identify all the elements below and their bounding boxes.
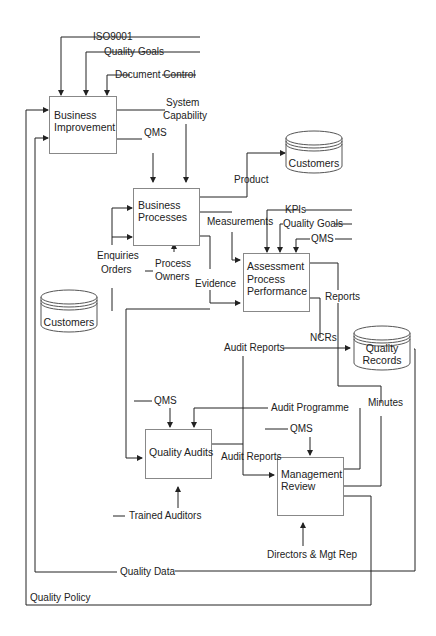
- process-label: Assessment: [247, 260, 304, 273]
- label-measurements: Measurements: [207, 216, 273, 228]
- datastore-customers-top[interactable]: Customers: [285, 130, 343, 175]
- label-document-control: Document Control: [115, 69, 196, 81]
- process-label: Review: [281, 480, 315, 493]
- process-business-processes[interactable]: Business Processes: [133, 188, 200, 246]
- process-quality-audits[interactable]: Quality Audits: [145, 429, 212, 479]
- datastore-label: Records: [353, 354, 411, 366]
- label-ncrs: NCRs: [310, 332, 337, 344]
- label-audit-reports-top: Audit Reports: [224, 342, 285, 354]
- label-audit-reports-mid: Audit Reports: [221, 451, 282, 463]
- label-minutes: Minutes: [368, 397, 403, 409]
- label-kpis: KPIs: [285, 204, 306, 216]
- label-system-capability-1: System: [166, 97, 199, 109]
- label-quality-goals-ap: Quality Goals: [283, 218, 343, 230]
- label-qms-mr: QMS: [290, 423, 313, 435]
- datastore-label: Customers: [285, 157, 343, 169]
- process-label: Improvement: [54, 121, 115, 134]
- label-quality-policy: Quality Policy: [30, 592, 91, 604]
- label-qms-qa: QMS: [154, 395, 177, 407]
- datastore-quality-records[interactable]: Quality Records: [353, 325, 411, 373]
- process-label: Process: [247, 273, 285, 286]
- label-reports: Reports: [325, 291, 360, 303]
- process-label: Business: [54, 109, 97, 122]
- label-directors-mgt-rep: Directors & Mgt Rep: [267, 549, 357, 561]
- label-iso9001: ISO9001: [93, 31, 132, 43]
- process-label: Processes: [138, 211, 187, 224]
- process-label: Performance: [247, 285, 307, 298]
- label-quality-goals-top: Quality Goals: [104, 46, 164, 58]
- label-trained-auditors: Trained Auditors: [129, 510, 201, 522]
- label-product: Product: [234, 174, 268, 186]
- datastore-label: Customers: [40, 316, 98, 328]
- label-evidence: Evidence: [195, 278, 236, 290]
- label-orders: Orders: [101, 264, 132, 276]
- process-label: Quality Audits: [149, 446, 213, 459]
- label-enquiries: Enquiries: [97, 250, 139, 262]
- label-audit-programme: Audit Programme: [271, 402, 349, 414]
- process-assessment-performance[interactable]: Assessment Process Performance: [243, 253, 310, 312]
- label-qms-ap: QMS: [311, 233, 334, 245]
- process-management-review[interactable]: Management Review: [277, 457, 344, 516]
- process-label: Business: [138, 199, 181, 212]
- label-system-capability-2: Capability: [163, 110, 207, 122]
- process-business-improvement[interactable]: Business Improvement: [49, 96, 117, 154]
- label-quality-data: Quality Data: [120, 566, 175, 578]
- datastore-label: Quality: [353, 342, 411, 354]
- process-label: Management: [281, 468, 342, 481]
- label-process-owners-1: Process: [155, 258, 191, 270]
- datastore-customers-left[interactable]: Customers: [40, 289, 98, 334]
- label-process-owners-2: Owners: [155, 271, 189, 283]
- label-qms-bi: QMS: [144, 127, 167, 139]
